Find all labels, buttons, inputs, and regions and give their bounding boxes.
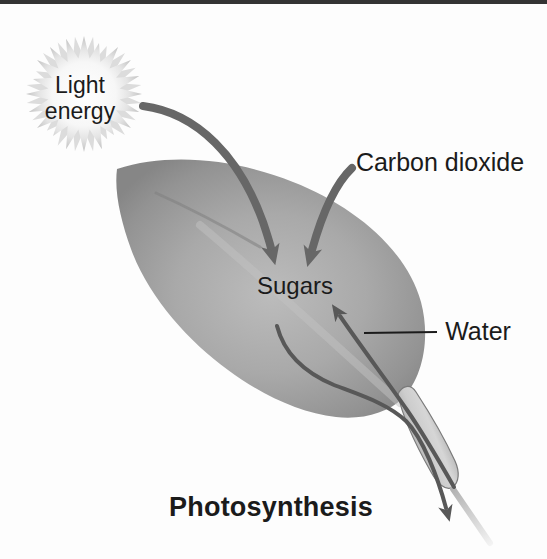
carbon-dioxide-label: Carbon dioxide bbox=[356, 148, 524, 177]
photosynthesis-figure: Light energy Carbon dioxide Sugars Water… bbox=[0, 0, 547, 559]
light-energy-label-line2: energy bbox=[45, 98, 115, 124]
water-pointer-line bbox=[364, 332, 437, 333]
photosynthesis-caption: Photosynthesis bbox=[169, 492, 373, 523]
light-energy-label: Light energy bbox=[45, 72, 115, 124]
stem-fade-line bbox=[453, 489, 490, 543]
leaf-stem bbox=[398, 386, 458, 488]
water-label: Water bbox=[445, 317, 511, 346]
light-energy-label-line1: Light bbox=[45, 72, 115, 98]
sugars-label: Sugars bbox=[257, 272, 333, 300]
